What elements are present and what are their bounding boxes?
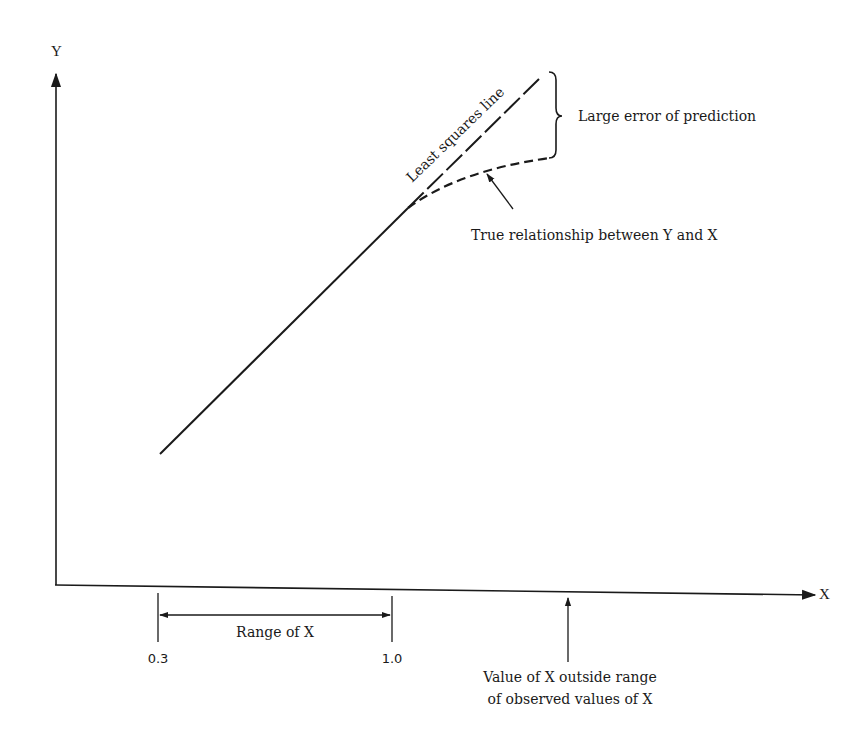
x-axis-label: X [819,586,830,602]
least-squares-line: Least squares line [160,79,539,454]
fitted-line-extrapolated [408,79,539,208]
y-axis-label: Y [51,43,62,59]
fitted-line-solid [160,208,408,454]
curly-brace [549,72,562,158]
range-of-x: Range of X 0.3 1.0 [148,593,403,666]
x-axis [55,585,815,595]
large-error-label: Large error of prediction [578,108,756,124]
true-relationship-annotation: True relationship between Y and X [471,174,718,243]
true-relationship-pointer [487,174,513,209]
axes: Y X [51,43,830,602]
tick-label-low: 0.3 [148,651,169,666]
error-brace: Large error of prediction [549,72,756,158]
diagram-canvas: Y X Least squares line Large error of pr… [0,0,867,742]
true-relationship-label: True relationship between Y and X [471,227,718,243]
outside-range-annotation: Value of X outside range of observed val… [482,598,657,707]
outside-range-label-line2: of observed values of X [488,691,653,707]
tick-label-high: 1.0 [382,651,403,666]
range-of-x-label: Range of X [236,624,314,640]
outside-range-label-line1: Value of X outside range [482,669,657,685]
